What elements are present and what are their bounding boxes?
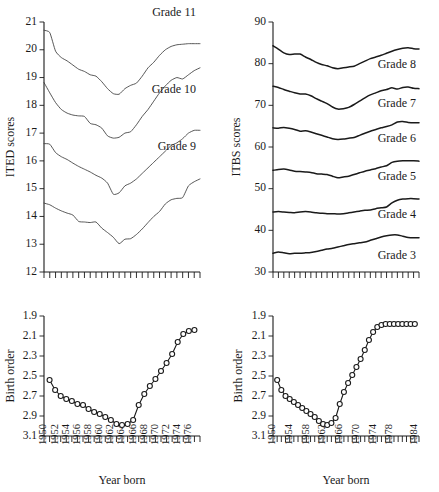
data-point-marker (136, 403, 141, 408)
data-point-marker (279, 388, 284, 393)
data-point-marker (97, 412, 102, 417)
y-tick-label: 19 (26, 70, 38, 82)
data-line (277, 324, 415, 425)
data-point-marker (58, 394, 63, 399)
data-point-marker (275, 378, 280, 383)
y-tick-label: 3.1 (252, 429, 267, 441)
series-label-grade-7: Grade 7 (378, 96, 416, 110)
x-tick-label: 1950 (266, 424, 277, 445)
y-tick-label: 2.5 (252, 369, 267, 381)
data-point-marker (64, 397, 69, 402)
panel-birth-order-right: 1.92.12.32.52.72.93.11950195419581962196… (220, 296, 439, 492)
x-tick-label: 1954 (60, 423, 71, 445)
y-tick-label: 21 (26, 15, 38, 27)
data-point-marker (175, 340, 180, 345)
data-point-marker (142, 392, 147, 397)
series-label-grade-10: Grade 10 (152, 82, 196, 96)
x-tick-label: 1972 (160, 424, 171, 445)
x-tick-label: 1974 (367, 423, 378, 445)
y-axis-title: ITED scores (3, 117, 17, 178)
y-tick-label: 2.9 (252, 409, 267, 421)
x-axis-title: Year born (322, 473, 369, 487)
y-tick-label: 20 (26, 42, 38, 54)
data-point-marker (86, 407, 91, 412)
data-point-marker (108, 418, 113, 423)
data-point-marker (358, 357, 363, 362)
x-tick-label: 1952 (49, 424, 60, 445)
y-tick-label: 12 (26, 265, 38, 277)
data-point-marker (159, 369, 164, 374)
x-tick-label: 1970 (149, 424, 160, 445)
y-tick-label: 2.9 (23, 409, 38, 421)
data-point-marker (354, 365, 359, 370)
y-tick-label: 70 (255, 98, 267, 110)
y-tick-label: 1.9 (252, 309, 267, 321)
series-label-grade-9: Grade 9 (158, 139, 196, 153)
x-tick-label: 1950 (37, 424, 48, 445)
data-point-marker (125, 422, 130, 427)
data-point-marker (346, 381, 351, 386)
y-tick-label: 16 (26, 154, 38, 166)
x-tick-label: 1966 (333, 424, 344, 445)
data-point-marker (333, 416, 338, 421)
data-point-marker (131, 418, 136, 423)
y-tick-label: 2.1 (23, 329, 38, 341)
y-tick-label: 2.7 (252, 389, 267, 401)
data-point-marker (147, 384, 152, 389)
x-tick-label: 1958 (82, 424, 93, 445)
panel-itbs-scores: 30405060708090ITBS scoresGrade 8Grade 7G… (220, 0, 439, 300)
series-label-grade-11: Grade 11 (152, 5, 196, 19)
series-label-grade-5: Grade 5 (378, 169, 416, 183)
panel-ited-scores: 12131415161718192021ITED scoresGrade 12G… (0, 0, 220, 300)
x-axis-title: Year born (98, 473, 145, 487)
data-point-marker (181, 332, 186, 337)
data-point-marker (329, 421, 334, 426)
data-point-marker (153, 377, 158, 382)
birth-order-right-chart-svg: 1.92.12.32.52.72.93.11950195419581962196… (220, 296, 439, 492)
x-tick-label: 1956 (71, 424, 82, 445)
y-tick-label: 18 (26, 98, 38, 110)
y-tick-label: 50 (255, 181, 267, 193)
x-tick-label: 1968 (138, 424, 149, 445)
y-tick-label: 2.3 (23, 349, 38, 361)
data-point-marker (75, 402, 80, 407)
data-point-marker (120, 423, 125, 428)
data-point-marker (366, 338, 371, 343)
x-tick-label: 1976 (182, 424, 193, 445)
y-tick-label: 14 (26, 209, 38, 221)
ited-chart-svg: 12131415161718192021ITED scoresGrade 12G… (0, 0, 220, 300)
data-point-marker (312, 415, 317, 420)
series-label-grade-3: Grade 3 (378, 248, 416, 262)
y-tick-label: 30 (255, 265, 267, 277)
y-tick-label: 40 (255, 223, 267, 235)
x-tick-label: 1970 (350, 424, 361, 445)
data-point-marker (69, 399, 74, 404)
data-point-marker (81, 403, 86, 408)
data-point-marker (53, 388, 58, 393)
y-axis-title: Birth order (231, 350, 245, 403)
figure-panel-grid: 12131415161718192021ITED scoresGrade 12G… (0, 0, 439, 492)
x-tick-label: 1960 (93, 424, 104, 445)
x-tick-label: 1978 (383, 424, 394, 445)
y-tick-label: 17 (26, 126, 38, 138)
y-tick-label: 2.7 (23, 389, 38, 401)
y-tick-label: 15 (26, 181, 38, 193)
x-tick-label: 1974 (171, 423, 182, 445)
birth-order-left-chart-svg: 1.92.12.32.52.72.93.11950195219541956195… (0, 296, 220, 492)
data-point-marker (341, 390, 346, 395)
x-tick-label: 1954 (283, 423, 294, 445)
series-label-grade-8: Grade 8 (378, 57, 416, 71)
y-tick-label: 3.1 (23, 429, 38, 441)
data-point-marker (371, 330, 376, 335)
series-curve (44, 179, 200, 244)
data-point-marker (164, 361, 169, 366)
data-point-marker (186, 329, 191, 334)
data-point-marker (114, 422, 119, 427)
data-point-marker (412, 322, 417, 327)
series-label-grade-4: Grade 4 (378, 207, 416, 221)
data-point-marker (170, 352, 175, 357)
data-point-marker (47, 378, 52, 383)
y-tick-label: 2.1 (252, 329, 267, 341)
x-tick-label: 1966 (127, 424, 138, 445)
x-tick-label: 1984 (408, 423, 419, 445)
